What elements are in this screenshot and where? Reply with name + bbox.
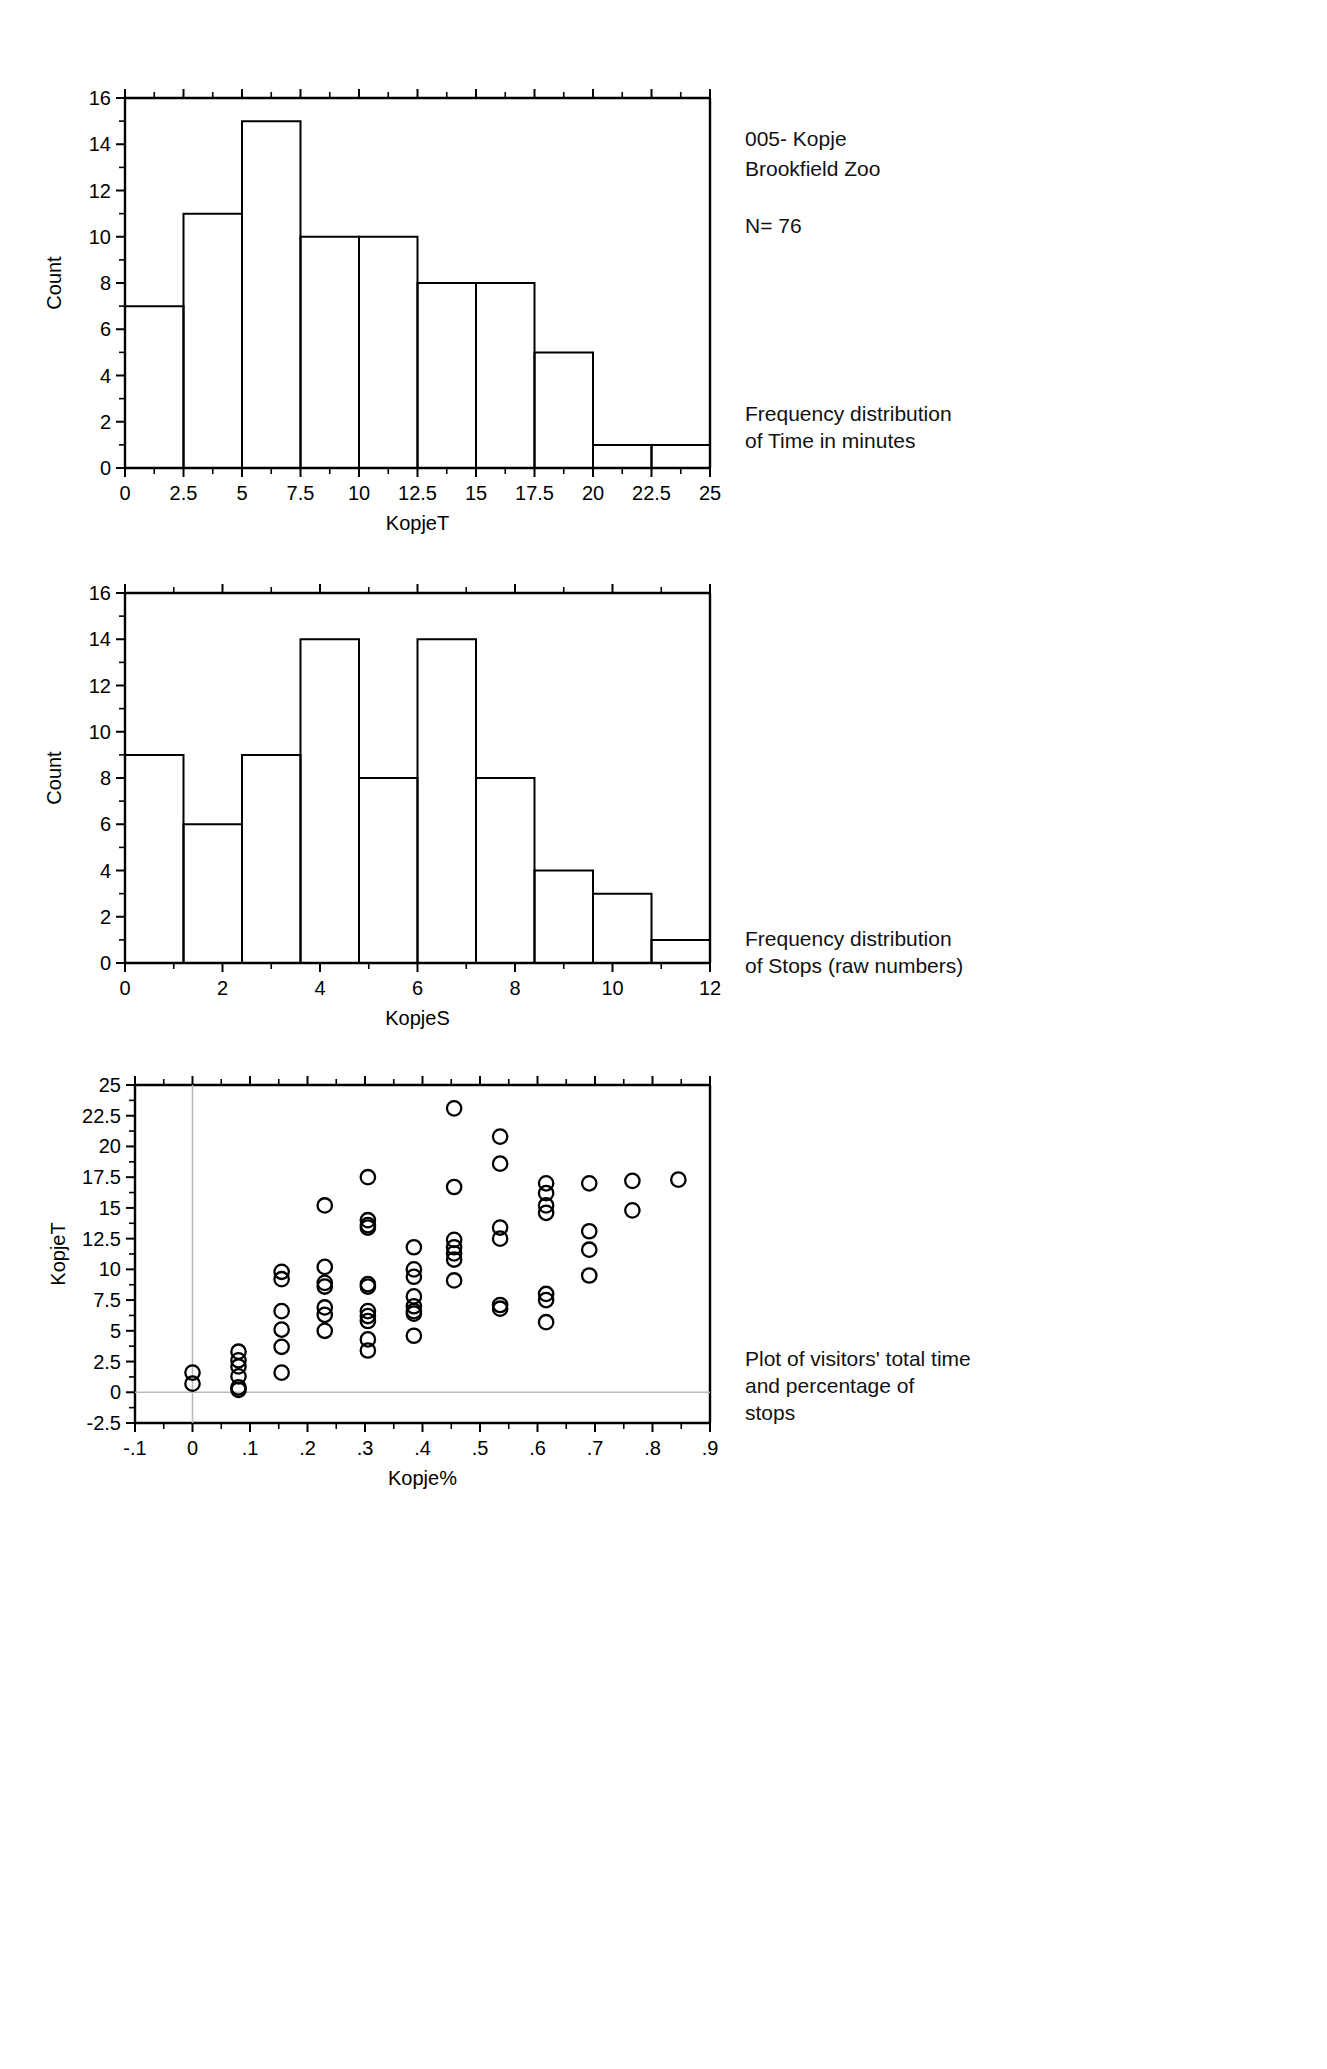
scatter-point	[447, 1180, 461, 1194]
histogram-bar	[242, 755, 301, 963]
scatter-point	[274, 1304, 288, 1318]
scatter-point	[671, 1172, 685, 1186]
svg-text:17.5: 17.5	[82, 1166, 121, 1188]
scatter-point	[625, 1174, 639, 1188]
svg-text:12: 12	[699, 977, 721, 999]
scatter-point	[493, 1231, 507, 1245]
svg-text:8: 8	[100, 767, 111, 789]
svg-text:20: 20	[99, 1135, 121, 1157]
histogram-bar	[359, 778, 418, 963]
svg-text:5: 5	[110, 1320, 121, 1342]
svg-text:12.5: 12.5	[82, 1228, 121, 1250]
svg-text:5: 5	[236, 482, 247, 504]
svg-text:22.5: 22.5	[82, 1105, 121, 1127]
histogram-bar	[535, 352, 594, 468]
svg-text:.7: .7	[587, 1437, 604, 1459]
scatter-point	[407, 1329, 421, 1343]
svg-text:-.1: -.1	[123, 1437, 146, 1459]
svg-text:Count: Count	[43, 256, 65, 310]
kopjeT-histogram: 024681012141602.557.51012.51517.52022.52…	[40, 70, 760, 540]
kopje-scatter: -2.502.557.51012.51517.52022.525-.10.1.2…	[40, 1055, 760, 1505]
svg-text:Count: Count	[43, 751, 65, 805]
histogram-bar	[652, 445, 711, 468]
svg-text:.8: .8	[644, 1437, 661, 1459]
svg-text:6: 6	[100, 813, 111, 835]
histogram-bar	[476, 283, 535, 468]
svg-text:10: 10	[89, 721, 111, 743]
svg-text:8: 8	[100, 272, 111, 294]
svg-text:7.5: 7.5	[287, 482, 315, 504]
histogram-bar	[125, 755, 184, 963]
svg-text:KopjeT: KopjeT	[386, 512, 449, 534]
kopjeS-histogram: 0246810121416024681012KopjeSCount	[40, 565, 760, 1035]
scatter-point	[447, 1101, 461, 1115]
svg-text:15: 15	[465, 482, 487, 504]
scatter-point	[318, 1260, 332, 1274]
header-location: Brookfield Zoo	[745, 155, 880, 182]
header-sample-size: N= 76	[745, 212, 802, 239]
svg-text:.1: .1	[242, 1437, 259, 1459]
svg-text:0: 0	[100, 952, 111, 974]
svg-text:0: 0	[100, 457, 111, 479]
chart-kopjeT-histogram: 024681012141602.557.51012.51517.52022.52…	[40, 70, 760, 540]
chart3-caption: Plot of visitors' total time and percent…	[745, 1345, 971, 1426]
histogram-bar	[535, 871, 594, 964]
svg-text:25: 25	[99, 1074, 121, 1096]
scatter-point	[582, 1242, 596, 1256]
svg-text:10: 10	[99, 1258, 121, 1280]
histogram-bar	[418, 639, 477, 963]
scatter-point	[582, 1268, 596, 1282]
svg-text:0: 0	[119, 482, 130, 504]
svg-text:8: 8	[509, 977, 520, 999]
scatter-point	[274, 1365, 288, 1379]
svg-text:2: 2	[217, 977, 228, 999]
scatter-point	[493, 1129, 507, 1143]
histogram-bar	[593, 445, 652, 468]
svg-text:12.5: 12.5	[398, 482, 437, 504]
svg-text:14: 14	[89, 133, 111, 155]
histogram-bar	[476, 778, 535, 963]
svg-text:7.5: 7.5	[93, 1289, 121, 1311]
histogram-bar	[652, 940, 711, 963]
chart-kopje-scatter: -2.502.557.51012.51517.52022.525-.10.1.2…	[40, 1055, 760, 1505]
svg-text:22.5: 22.5	[632, 482, 671, 504]
histogram-bar	[593, 894, 652, 963]
svg-text:.4: .4	[414, 1437, 431, 1459]
svg-text:10: 10	[89, 226, 111, 248]
svg-text:12: 12	[89, 675, 111, 697]
svg-text:0: 0	[119, 977, 130, 999]
svg-text:.9: .9	[702, 1437, 719, 1459]
svg-text:12: 12	[89, 180, 111, 202]
svg-text:4: 4	[100, 365, 111, 387]
chart1-caption: Frequency distribution of Time in minute…	[745, 400, 952, 454]
scatter-point	[582, 1176, 596, 1190]
scatter-point	[407, 1240, 421, 1254]
svg-text:KopjeS: KopjeS	[385, 1007, 450, 1029]
scatter-point	[274, 1340, 288, 1354]
scatter-point	[361, 1170, 375, 1184]
svg-text:4: 4	[314, 977, 325, 999]
svg-text:4: 4	[100, 860, 111, 882]
svg-text:0: 0	[187, 1437, 198, 1459]
svg-text:.6: .6	[529, 1437, 546, 1459]
histogram-bar	[242, 121, 301, 468]
scatter-point	[318, 1198, 332, 1212]
svg-text:16: 16	[89, 87, 111, 109]
svg-text:6: 6	[100, 318, 111, 340]
scatter-point	[361, 1343, 375, 1357]
chart2-caption: Frequency distribution of Stops (raw num…	[745, 925, 963, 979]
svg-text:25: 25	[699, 482, 721, 504]
svg-text:20: 20	[582, 482, 604, 504]
svg-text:.3: .3	[357, 1437, 374, 1459]
svg-text:2.5: 2.5	[93, 1351, 121, 1373]
svg-text:10: 10	[348, 482, 370, 504]
svg-text:10: 10	[601, 977, 623, 999]
histogram-bar	[125, 306, 184, 468]
svg-text:.5: .5	[472, 1437, 489, 1459]
header-site-code: 005- Kopje	[745, 125, 847, 152]
svg-text:Kopje%: Kopje%	[388, 1467, 457, 1489]
chart-kopjeS-histogram: 0246810121416024681012KopjeSCount	[40, 565, 760, 1035]
svg-text:.2: .2	[299, 1437, 316, 1459]
svg-text:2: 2	[100, 906, 111, 928]
histogram-bar	[359, 237, 418, 468]
